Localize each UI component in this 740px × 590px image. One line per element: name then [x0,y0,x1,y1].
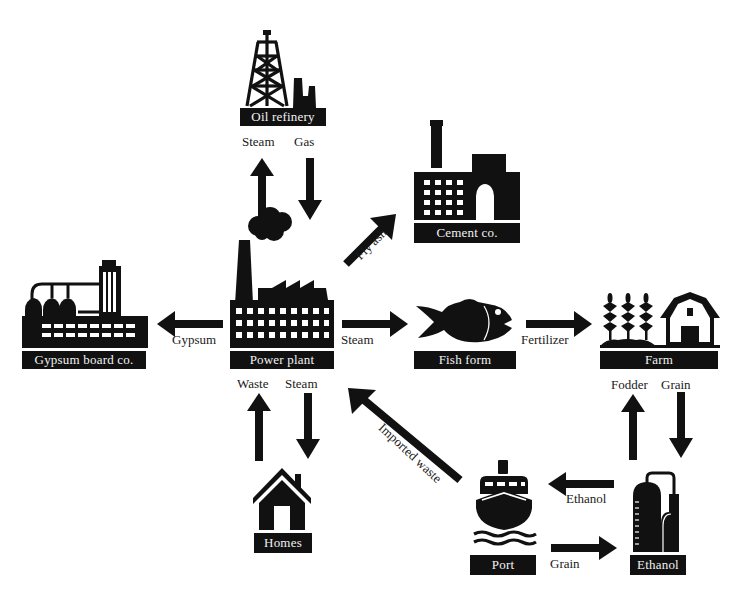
flow-label-steam-to-homes: Steam [285,376,318,391]
smoke-cloud-icon [246,206,296,242]
flow-label-ethanol-to-port: Ethanol [566,491,606,506]
arrow-down-icon [669,392,693,458]
flow-label-waste: Waste [237,376,268,391]
ethanol-label: Ethanol [630,555,686,575]
cement-factory-icon [414,118,520,220]
flow-label-fertilizer: Fertilizer [521,332,569,347]
homes-label: Homes [254,533,312,553]
fish-icon [414,298,516,346]
flow-label-fodder: Fodder [611,377,648,392]
arrow-up-icon [247,393,271,461]
arrow-diagonal-up-left-icon [346,386,466,486]
farm-icon [600,292,720,348]
gypsum-plant-icon [22,258,148,348]
flow-label-gypsum: Gypsum [172,332,216,347]
flow-label-grain-to-ethanol: Grain [661,377,691,392]
flow-label-gas: Gas [294,134,314,149]
house-icon [253,468,311,530]
power-plant-icon [230,240,334,348]
flow-label-steam-to-refinery: Steam [242,134,275,149]
arrow-up-icon [621,394,645,460]
farm-label: Farm [600,351,718,369]
arrow-down-icon [298,158,322,220]
distillery-icon [633,470,685,552]
flow-label-steam-to-fish: Steam [341,332,374,347]
port-label: Port [470,555,536,575]
power-plant-label: Power plant [230,351,334,369]
arrow-down-icon [296,393,320,459]
refinery-stacks-icon [291,76,323,108]
ship-icon [472,460,538,550]
flow-label-grain-to-ethanol-from-port: Grain [550,556,580,571]
fish-form-label: Fish form [414,351,516,369]
gypsum-board-company-label: Gypsum board co. [22,351,146,369]
cement-company-label: Cement co. [414,223,520,243]
oil-refinery-label: Oil refinery [240,108,326,126]
